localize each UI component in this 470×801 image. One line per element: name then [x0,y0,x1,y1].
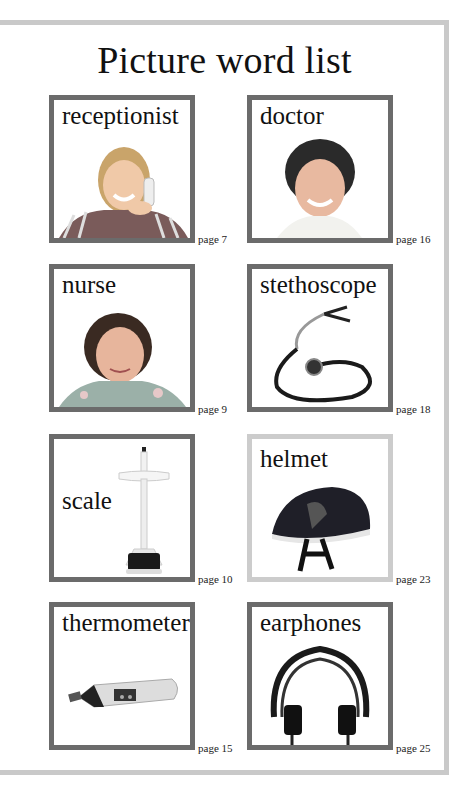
card-nurse: nurse [49,264,195,412]
page-ref: page 25 [396,742,431,754]
word-label: receptionist [62,102,179,130]
word-label: stethoscope [260,271,377,299]
page-ref: page 15 [198,742,233,754]
page-title: Picture word list [0,38,449,82]
page-ref: page 7 [198,233,227,245]
word-label: scale [62,487,112,515]
card-scale: scale [49,434,195,582]
card-doctor: doctor [247,95,393,243]
card-thermometer: thermometer [49,602,195,750]
word-label: earphones [260,609,361,637]
page-ref: page 23 [396,573,431,585]
card-helmet: helmet [247,434,393,582]
word-label: doctor [260,102,324,130]
word-label: helmet [260,445,328,473]
page-ref: page 10 [198,573,233,585]
card-stethoscope: stethoscope [247,264,393,412]
word-label: thermometer [62,609,190,637]
page-ref: page 16 [396,233,431,245]
page-ref: page 18 [396,403,431,415]
page-ref: page 9 [198,403,227,415]
word-label: nurse [62,271,116,299]
card-earphones: earphones [247,602,393,750]
card-receptionist: receptionist [49,95,195,243]
